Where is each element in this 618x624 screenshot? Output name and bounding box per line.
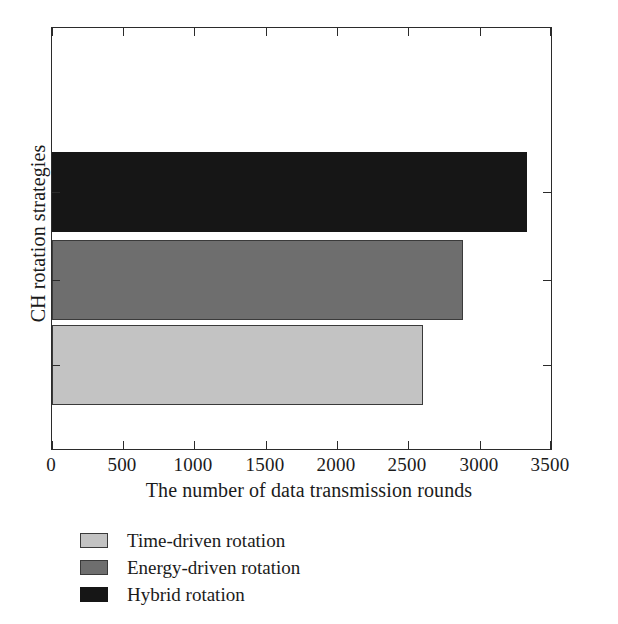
x-tick-top-3500 [550,28,551,36]
x-tick-3000 [480,441,481,449]
x-tick-1000 [194,441,195,449]
bar-chart-figure: CH rotation strategies 0 500 10 [0,0,618,624]
x-tick-label-3500: 3500 [505,455,595,474]
y-tick-time-driven-rotation [52,365,60,366]
x-tick-top-0 [52,28,53,36]
bar-hybrid-rotation [52,152,527,232]
x-tick-top-1000 [194,28,195,36]
chart-legend: Time-driven rotation Energy-driven rotat… [80,527,500,608]
y-tick-hybrid-rotation [52,192,60,193]
x-tick-top-2000 [337,28,338,36]
y-tick-right-time-driven-rotation [543,365,551,366]
x-tick-500 [123,441,124,449]
x-axis-title: The number of data transmission rounds [0,479,618,502]
y-tick-energy-driven-rotation [52,280,60,281]
x-tick-3500 [550,441,551,449]
bar-time-driven-rotation [52,325,423,405]
x-tick-top-3000 [480,28,481,36]
x-tick-0 [52,441,53,449]
medium-gray-swatch-icon [80,560,108,575]
x-tick-2000 [337,441,338,449]
legend-item-time-driven-rotation: Time-driven rotation [80,527,500,554]
x-tick-top-500 [123,28,124,36]
y-tick-right-energy-driven-rotation [543,280,551,281]
y-tick-right-hybrid-rotation [543,192,551,193]
legend-item-energy-driven-rotation: Energy-driven rotation [80,554,500,581]
legend-item-hybrid-rotation: Hybrid rotation [80,581,500,608]
legend-label-energy-driven-rotation: Energy-driven rotation [127,557,300,579]
x-tick-1500 [266,441,267,449]
x-tick-top-1500 [266,28,267,36]
black-swatch-icon [80,587,108,602]
legend-label-time-driven-rotation: Time-driven rotation [127,530,285,552]
bar-energy-driven-rotation [52,240,463,320]
light-gray-swatch-icon [80,533,108,548]
y-axis-title: CH rotation strategies [27,104,50,364]
plot-area [51,27,552,450]
legend-label-hybrid-rotation: Hybrid rotation [127,584,245,606]
x-tick-2500 [408,441,409,449]
x-tick-top-2500 [408,28,409,36]
